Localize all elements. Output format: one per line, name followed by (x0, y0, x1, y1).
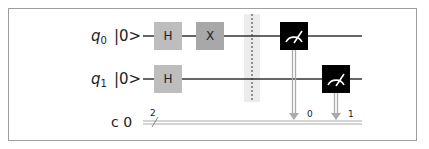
measure-q0 (280, 22, 308, 120)
svg-text:X: X (206, 29, 214, 43)
quantum-circuit-diagram: 2 q0 |0> q1 |0> c 0 H X H 0 (0, 0, 429, 149)
h-gate-q1: H (154, 65, 182, 93)
h-gate-q0: H (154, 22, 182, 50)
qubit-label-q1: q1 (91, 70, 107, 89)
svg-text:H: H (163, 29, 172, 43)
x-gate-q0: X (196, 22, 224, 50)
qubit-init-q0: |0> (114, 27, 141, 45)
svg-text:H: H (163, 72, 172, 86)
qubit-init-q1: |0> (114, 70, 141, 88)
bus-slash (152, 117, 158, 127)
cbit-label-0: 0 (307, 109, 313, 119)
qubit-label-q0: q0 (91, 27, 107, 46)
cbit-label-1: 1 (348, 109, 354, 119)
classical-width-label: 2 (150, 108, 156, 118)
classical-register-label: c 0 (111, 114, 132, 130)
measure-q1 (322, 65, 350, 120)
